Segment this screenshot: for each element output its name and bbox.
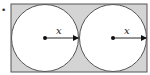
left-radius-label: x (56, 25, 62, 36)
two-circles-in-rectangle-diagram: • x x (0, 0, 150, 75)
right-radius-label: x (124, 25, 130, 36)
bullet-marker: • (1, 5, 6, 15)
